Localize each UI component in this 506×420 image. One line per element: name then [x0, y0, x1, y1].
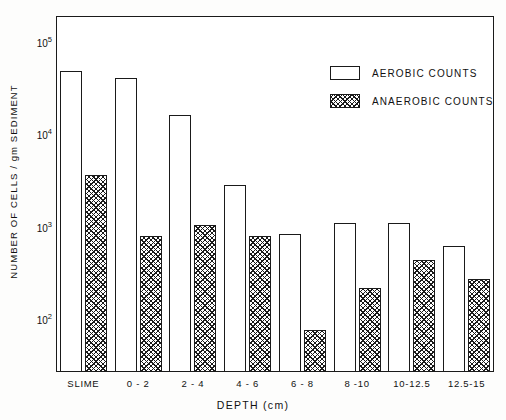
bar-aerobic — [60, 71, 82, 372]
x-tick-label: 8 -10 — [345, 378, 370, 389]
x-axis-title: DEPTH (cm) — [0, 399, 506, 411]
x-tick-label: 12.5-15 — [448, 378, 485, 389]
x-tick-label: 0 - 2 — [127, 378, 150, 389]
legend-label: ANAEROBIC COUNTS — [372, 96, 494, 107]
legend: AEROBIC COUNTSANAEROBIC COUNTS — [330, 63, 494, 119]
y-tick-label: 105 — [37, 35, 52, 48]
bar-anaerobic — [304, 330, 326, 372]
bar-anaerobic — [140, 236, 162, 372]
bar-anaerobic — [359, 288, 381, 372]
x-tick-label: 2 - 4 — [182, 378, 205, 389]
x-tick-label: 10-12.5 — [393, 378, 430, 389]
bar-anaerobic — [85, 175, 107, 372]
legend-item: ANAEROBIC COUNTS — [330, 91, 494, 111]
legend-swatch-aerobic — [330, 66, 360, 80]
legend-item: AEROBIC COUNTS — [330, 63, 494, 83]
bar-aerobic — [279, 234, 301, 372]
legend-swatch-anaerobic — [330, 94, 360, 108]
bar-anaerobic — [413, 260, 435, 372]
y-tick-label: 104 — [37, 128, 52, 141]
legend-label: AEROBIC COUNTS — [372, 68, 477, 79]
bar-anaerobic — [249, 236, 271, 372]
x-tick-label: 6 - 8 — [291, 378, 314, 389]
x-tick-label: SLIME — [67, 378, 99, 389]
bar-aerobic — [334, 223, 356, 372]
bar-aerobic — [388, 223, 410, 372]
bar-aerobic — [224, 185, 246, 372]
y-tick-label: 102 — [37, 313, 52, 326]
y-axis-title: NUMBER OF CELLS / gm SEDIMENT — [8, 17, 19, 347]
x-tick-label: 4 - 6 — [236, 378, 259, 389]
bar-aerobic — [443, 246, 465, 372]
y-axis-group: NUMBER OF CELLS / gm SEDIMENT 1051041031… — [0, 0, 52, 420]
x-axis-tick-labels: SLIME0 - 22 - 44 - 66 - 88 -1010-12.512.… — [56, 378, 494, 396]
bar-anaerobic — [194, 225, 216, 372]
bar-aerobic — [115, 78, 137, 372]
bacterial-counts-bar-chart: NUMBER OF CELLS / gm SEDIMENT 1051041031… — [0, 0, 506, 420]
bar-anaerobic — [468, 279, 490, 372]
bar-aerobic — [169, 115, 191, 372]
y-tick-label: 103 — [37, 220, 52, 233]
